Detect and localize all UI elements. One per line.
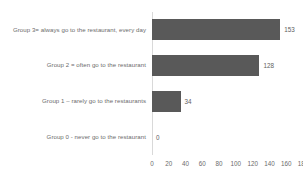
plot-area: Group 3= always go to the restaurant, ev… <box>0 0 303 155</box>
x-axis-tick-label: 60 <box>199 160 206 167</box>
bar-rows: Group 3= always go to the restaurant, ev… <box>0 12 303 155</box>
x-axis-tick-label: 20 <box>165 160 172 167</box>
chart-row: Group 0 - never go to the restaurant 0 <box>0 119 303 155</box>
x-axis: 020406080100120140160180 <box>152 157 303 175</box>
category-label: Group 0 - never go to the restaurant <box>2 119 146 155</box>
x-axis-tick-label: 0 <box>150 160 154 167</box>
bar-container: 34 <box>152 84 303 120</box>
bar-container: 128 <box>152 48 303 84</box>
category-label: Group 3= always go to the restaurant, ev… <box>2 12 146 48</box>
bar[interactable] <box>152 55 259 76</box>
x-axis-tick-label: 100 <box>231 160 242 167</box>
x-axis-tick-label: 160 <box>281 160 292 167</box>
x-axis-tick-label: 120 <box>247 160 258 167</box>
bar-value-label: 128 <box>263 62 274 69</box>
x-axis-tick-label: 40 <box>182 160 189 167</box>
bar[interactable] <box>152 91 181 112</box>
chart-row: Group 3= always go to the restaurant, ev… <box>0 12 303 48</box>
bar-value-label: 34 <box>185 98 192 105</box>
bar[interactable] <box>152 19 280 40</box>
chart-row: Group 1 – rarely go to the restaurants 3… <box>0 84 303 120</box>
bar-chart: Group 3= always go to the restaurant, ev… <box>0 0 303 180</box>
x-axis-tick-label: 140 <box>264 160 275 167</box>
bar-container: 0 <box>152 119 303 155</box>
chart-row: Group 2 = often go to the restaurant 128 <box>0 48 303 84</box>
bar-value-label: 153 <box>284 26 295 33</box>
x-axis-tick-label: 80 <box>216 160 223 167</box>
category-label: Group 1 – rarely go to the restaurants <box>2 84 146 120</box>
category-label: Group 2 = often go to the restaurant <box>2 48 146 84</box>
x-axis-tick-label: 180 <box>298 160 303 167</box>
bar-value-label: 0 <box>156 134 160 141</box>
bar-container: 153 <box>152 12 303 48</box>
